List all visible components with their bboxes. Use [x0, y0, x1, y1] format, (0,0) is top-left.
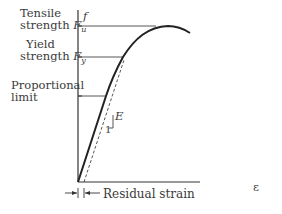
proportional-limit-label: Proportional limit	[11, 79, 84, 103]
modulus-label: E	[115, 110, 123, 122]
slope-run-label: 1	[105, 124, 111, 136]
yield-strength-label: Yield strength Fy	[20, 38, 86, 67]
x-axis-label: ε	[253, 181, 259, 193]
residual-strain-label: Residual strain	[103, 188, 195, 200]
stress-strain-curve	[78, 26, 190, 182]
tensile-strength-label: Tensile strength Fu	[20, 7, 86, 36]
